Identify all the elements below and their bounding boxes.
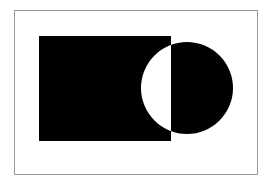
rectangle-circle-xor-shape <box>39 36 233 141</box>
diagram-canvas <box>0 0 270 182</box>
